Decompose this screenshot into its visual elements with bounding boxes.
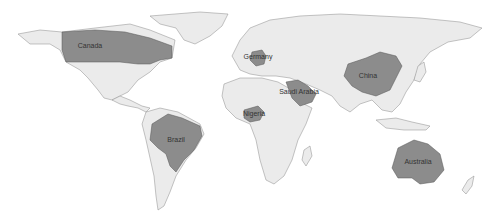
indonesia bbox=[376, 118, 430, 130]
label-saudi-arabia: Saudi Arabia bbox=[279, 88, 319, 95]
label-canada: Canada bbox=[78, 42, 103, 49]
label-germany: Germany bbox=[244, 53, 273, 61]
world-map-svg: Canada Germany Saudi Arabia China Nigeri… bbox=[0, 0, 499, 221]
new-zealand bbox=[462, 176, 474, 194]
label-australia: Australia bbox=[404, 158, 431, 165]
label-brazil: Brazil bbox=[167, 136, 185, 143]
label-nigeria: Nigeria bbox=[243, 110, 265, 118]
world-map: Canada Germany Saudi Arabia China Nigeri… bbox=[0, 0, 499, 221]
central-america bbox=[112, 96, 150, 112]
label-china: China bbox=[359, 72, 377, 79]
madagascar bbox=[302, 146, 312, 166]
